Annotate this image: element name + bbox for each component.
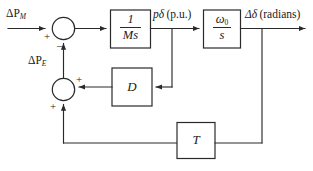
inertia-denominator: Ms — [120, 28, 141, 42]
integrator-denominator: s — [213, 28, 232, 42]
integrator-numerator: ω0 — [213, 13, 232, 28]
pdelta-unit: (p.u.) — [166, 8, 191, 20]
sign-bottom-junction-right: + — [76, 74, 82, 85]
block-label-inertia: 1 Ms — [111, 13, 151, 43]
output-variable: Δδ — [245, 8, 257, 20]
sign-top-junction-bottom: – — [57, 40, 63, 51]
summing-junction-bottom — [52, 78, 74, 100]
label-feedback-electrical: ΔPE — [28, 55, 46, 67]
pdelta-variable: pδ — [153, 8, 164, 20]
sign-top-junction-left: + — [44, 31, 50, 42]
output-unit: (radians) — [259, 8, 300, 20]
block-label-damping: D — [112, 79, 152, 95]
inertia-numerator: 1 — [120, 13, 141, 28]
sign-bottom-junction-bottom: + — [50, 101, 56, 112]
label-input-mechanical: ΔPM — [6, 8, 26, 20]
label-pdelta: pδ (p.u.) — [153, 9, 191, 21]
diagram-wiring — [0, 0, 313, 171]
block-label-synchronizing: T — [177, 132, 215, 148]
label-output-delta: Δδ (radians) — [245, 9, 300, 21]
block-label-integrator: ω0 s — [204, 13, 241, 43]
summing-junction-top — [52, 17, 74, 39]
block-diagram-canvas: ΔPM + – ΔPE + + 1 Ms pδ (p.u.) ω0 s Δδ (… — [0, 0, 313, 171]
